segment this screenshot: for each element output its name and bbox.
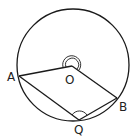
segment-OB bbox=[72, 66, 117, 98]
circle bbox=[17, 9, 129, 121]
label-Q: Q bbox=[74, 123, 83, 136]
segment-QB bbox=[79, 98, 117, 120]
label-O: O bbox=[65, 73, 74, 87]
label-A: A bbox=[7, 70, 16, 84]
label-B: B bbox=[119, 100, 127, 114]
angle-mark-Q bbox=[72, 111, 87, 115]
circle-diagram: A O B Q bbox=[0, 0, 138, 136]
